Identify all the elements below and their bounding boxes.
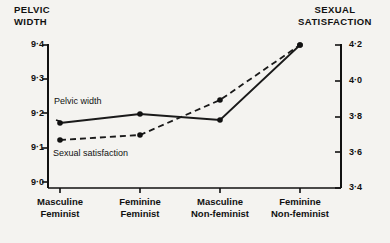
annotation-leader-pelvic-width: [56, 120, 62, 122]
plot-svg: [0, 0, 390, 243]
series-markers-pelvic-width: [57, 42, 303, 126]
series-line-sexual-satisfaction: [60, 45, 300, 140]
series-markers-sexual-satisfaction: [57, 42, 303, 143]
chart-figure: PELVIC WIDTH SEXUAL SATISFACTION 9·4 9·3…: [0, 0, 390, 243]
series-line-pelvic-width: [60, 45, 300, 123]
